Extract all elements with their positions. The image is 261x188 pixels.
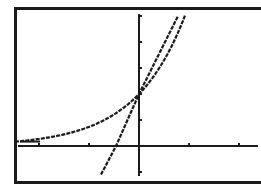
plotted-series: [15, 16, 185, 175]
exponential-curve: [15, 16, 185, 142]
graph-plot: [0, 0, 261, 188]
axes: [18, 14, 258, 176]
calculator-graph-screen: [0, 0, 261, 188]
